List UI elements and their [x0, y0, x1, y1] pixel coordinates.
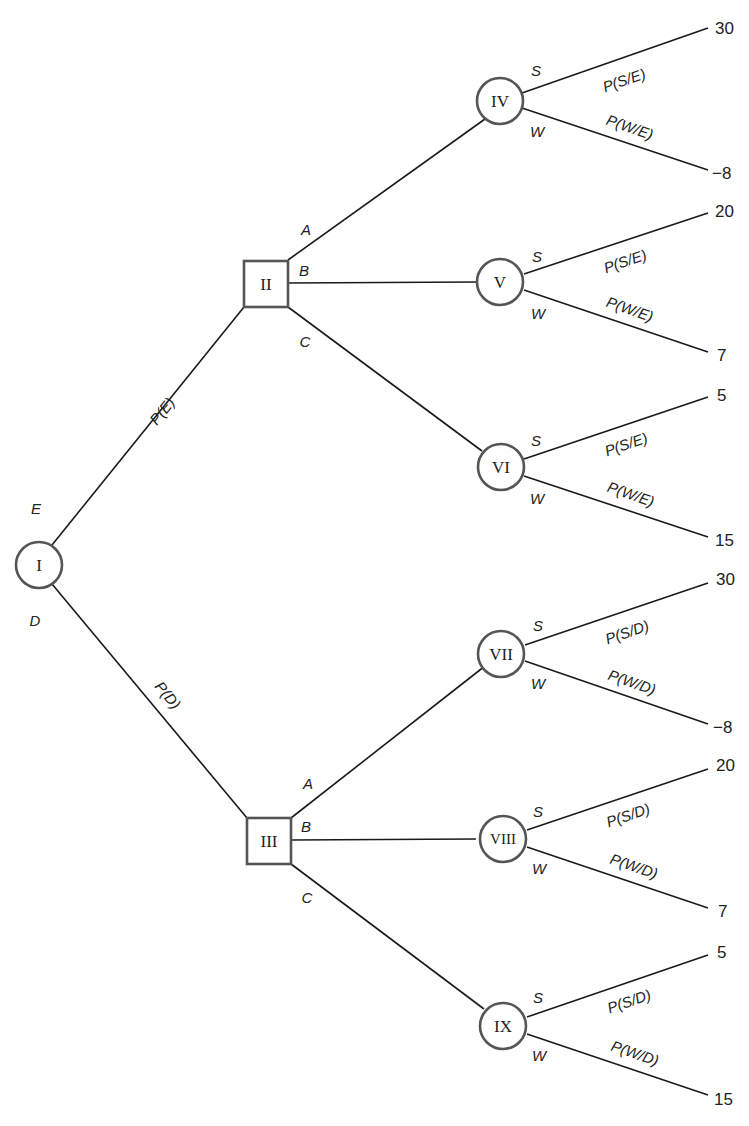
chance-node-I: I: [16, 542, 62, 588]
chance-node-VIII: VIII: [480, 816, 526, 862]
branch-label-II-C: C: [300, 333, 311, 350]
prob-label-V-S: P(S/E): [601, 246, 648, 276]
decision-tree-diagram: I II III IV V VI VII VIII IX E D P(E) P(…: [0, 0, 749, 1126]
payoff-VIII-S: 20: [716, 756, 735, 775]
prob-label-VII-S: P(S/D): [603, 617, 651, 648]
prob-label-IX-S: P(S/D): [605, 986, 653, 1017]
branch-label-III-A: A: [302, 775, 313, 792]
node-label: VI: [492, 458, 510, 477]
branch-label-II-A: A: [300, 221, 311, 238]
edge-I-III: [52, 584, 247, 818]
chance-node-IX: IX: [480, 1003, 526, 1049]
node-label: V: [494, 273, 507, 292]
chance-node-IV: IV: [477, 78, 523, 124]
payoff-V-S: 20: [715, 202, 734, 221]
edge-III-VII: [291, 666, 485, 818]
node-label: IV: [491, 92, 510, 111]
payoff-V-W: 7: [717, 346, 726, 365]
payoff-VI-S: 5: [717, 386, 726, 405]
prob-label-IV-S: P(S/E): [600, 65, 647, 95]
prob-label-VII-W: P(W/D): [606, 666, 658, 698]
outcome-label-VII-S: S: [533, 617, 543, 634]
branch-label-III-C: C: [302, 889, 313, 906]
decision-node-II: II: [244, 261, 288, 307]
outcome-label-VI-S: S: [531, 432, 541, 449]
edge-III-IX: [291, 864, 484, 1009]
node-label: IX: [494, 1017, 512, 1036]
payoff-VII-W: −8: [713, 718, 732, 737]
node-label: III: [261, 832, 278, 851]
outcome-label-VIII-W: W: [532, 860, 548, 877]
edge-I-II: [52, 307, 244, 545]
node-label: II: [260, 275, 272, 294]
payoff-VII-S: 30: [716, 570, 735, 589]
branch-label-III-B: B: [301, 818, 311, 835]
branch-label-D: D: [30, 612, 41, 629]
decision-node-III: III: [247, 818, 291, 864]
node-label: I: [36, 556, 42, 575]
chance-node-VI: VI: [478, 444, 524, 490]
prob-label-P-D: P(D): [152, 678, 185, 713]
outcome-label-VII-W: W: [531, 675, 547, 692]
outcome-label-V-W: W: [531, 305, 547, 322]
outcome-label-IV-W: W: [530, 123, 546, 140]
node-label: VII: [489, 645, 513, 664]
outcome-label-IX-S: S: [533, 989, 543, 1006]
branch-label-E: E: [31, 500, 42, 517]
edge-III-VIII: [291, 839, 476, 840]
outcome-label-IX-W: W: [532, 1047, 548, 1064]
payoff-IV-W: −8: [712, 164, 731, 183]
payoff-IX-S: 5: [717, 943, 726, 962]
payoff-IX-W: 15: [714, 1090, 733, 1109]
payoff-IV-S: 30: [715, 19, 734, 38]
edge-II-IV: [288, 119, 485, 260]
outcome-label-VI-W: W: [530, 490, 546, 507]
prob-label-VI-S: P(S/E): [602, 429, 649, 459]
edge-II-VI: [288, 307, 482, 451]
prob-label-VIII-S: P(S/D): [604, 800, 652, 831]
edge-II-V: [288, 282, 476, 283]
outcome-label-V-S: S: [532, 248, 542, 265]
payoff-VI-W: 15: [715, 531, 734, 550]
branch-label-II-B: B: [299, 262, 309, 279]
outcome-label-IV-S: S: [531, 62, 541, 79]
payoff-VIII-W: 7: [718, 902, 727, 921]
chance-node-V: V: [477, 259, 523, 305]
outcome-label-VIII-S: S: [533, 803, 543, 820]
chance-node-VII: VII: [478, 631, 524, 677]
node-label: VIII: [490, 831, 516, 847]
